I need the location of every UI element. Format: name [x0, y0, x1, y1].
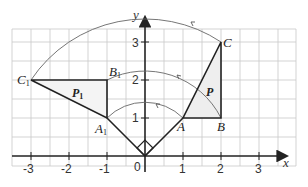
x-tick-1: 1: [179, 162, 186, 176]
coordinate-diagram: -3 -2 -1 0 1 2 3 1 2 3 x y A B C A1 B1 C…: [0, 0, 308, 187]
label-a: A: [176, 119, 185, 134]
origin-label: 0: [134, 160, 141, 174]
y-tick-1: 1: [132, 111, 139, 125]
x-tick-neg2: -2: [61, 162, 72, 176]
label-c: C: [223, 35, 232, 50]
label-a1: A1: [94, 121, 107, 137]
label-b1: B1: [109, 64, 121, 80]
y-tick-3: 3: [132, 36, 139, 50]
x-axis-label: x: [282, 155, 289, 170]
arc-arrow-icon: [191, 22, 195, 26]
x-tick-neg3: -3: [23, 162, 34, 176]
y-tick-2: 2: [132, 73, 139, 87]
arc-arrow-icon: [156, 104, 160, 108]
label-c1: C1: [17, 72, 30, 88]
label-b: B: [217, 119, 225, 134]
x-tick-3: 3: [255, 162, 262, 176]
grid: [12, 29, 296, 166]
x-tick-neg1: -1: [99, 162, 110, 176]
x-tick-2: 2: [217, 162, 224, 176]
shape-p-label: P: [206, 85, 214, 99]
